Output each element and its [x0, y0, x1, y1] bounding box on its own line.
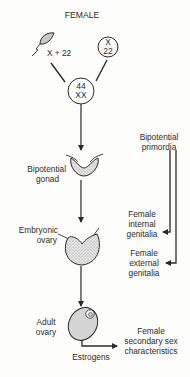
secondary-line: secondary sex [120, 336, 182, 346]
stage-label-line: ovary [32, 327, 60, 337]
zygote-karyotype-label: 44 XX [70, 82, 92, 100]
secondary-sex-characteristics-label: Female secondary sex characteristics [120, 326, 182, 356]
egg-chromosome-label: X 22 [98, 38, 118, 56]
stage-label-line: ovary [4, 235, 58, 245]
stage-label-adult-ovary: Adult ovary [32, 317, 60, 337]
egg-line2: 22 [98, 47, 118, 56]
secondary-line: Female [120, 326, 182, 336]
egg-to-zygote-line [96, 60, 107, 81]
sperm-to-zygote-line [51, 63, 65, 82]
secondary-line: characteristics [120, 346, 182, 356]
stage-label-line: Bipotential [10, 164, 66, 174]
internal-genitalia-label: Female internal genitalia [124, 209, 160, 239]
arrow-primordia-to-external [166, 150, 176, 263]
external-line: genitalia [125, 268, 163, 278]
arrow-primordia-to-internal [163, 150, 170, 232]
stage-label-embryonic-ovary: Embryonic ovary [4, 225, 58, 245]
zygote-line2: XX [70, 91, 92, 100]
diagram-title: FEMALE [62, 10, 102, 20]
arrow-estrogens-to-secondary [82, 340, 117, 346]
diagram-graphics [0, 0, 190, 377]
sperm-chromosome-label: X + 22 [43, 48, 75, 58]
external-genitalia-label: Female external genitalia [125, 248, 163, 278]
stage-label-line: Embryonic [4, 225, 58, 235]
internal-line: genitalia [124, 229, 160, 239]
internal-line: Female [124, 209, 160, 219]
embryonic-ovary-icon [58, 228, 99, 265]
adult-ovary-icon [63, 302, 104, 345]
external-line: Female [125, 248, 163, 258]
hormone-label: Estrogens [70, 352, 112, 362]
bipotential-gonad-icon [66, 154, 103, 176]
stage-label-bipotential-gonad: Bipotential gonad [10, 164, 66, 184]
stage-label-line: gonad [10, 174, 66, 184]
primordia-line: Bipotential [133, 132, 185, 142]
bipotential-primordia-label: Bipotential primordia [133, 132, 185, 152]
primordia-line: primordia [133, 142, 185, 152]
stage-label-line: Adult [32, 317, 60, 327]
external-line: external [125, 258, 163, 268]
internal-line: internal [124, 219, 160, 229]
